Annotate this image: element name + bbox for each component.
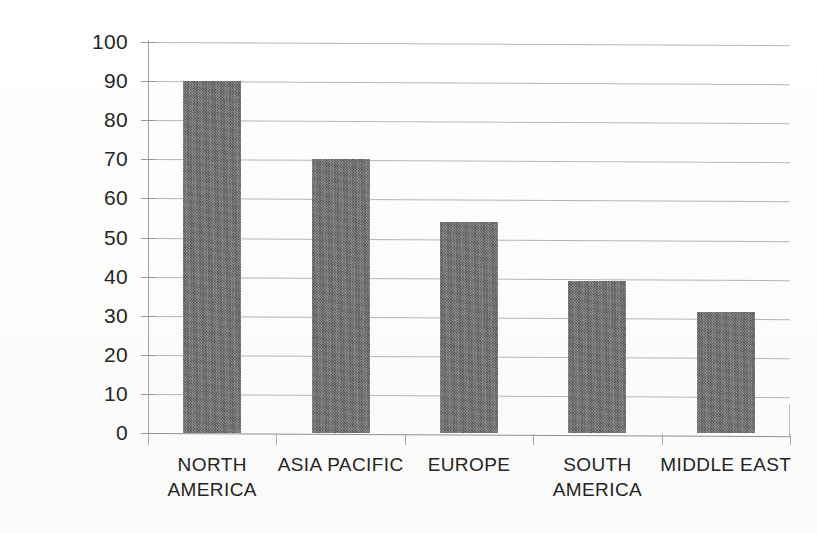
plot-area [148, 42, 790, 433]
y-tick-label-40: 40 [28, 265, 128, 289]
bar-chart: 1009080706050403020100 NORTH AMERICAASIA… [0, 0, 817, 533]
bar-europe [440, 222, 498, 433]
y-tick-label-10: 10 [28, 382, 128, 406]
y-tick-label-70: 70 [28, 147, 128, 171]
bar-south-america [568, 281, 626, 433]
x-tick-3 [533, 434, 534, 445]
x-tick-0 [148, 434, 149, 445]
y-tick-label-100: 100 [28, 30, 128, 54]
y-tick-label-30: 30 [28, 304, 128, 328]
y-tick-label-0: 0 [28, 421, 128, 445]
x-tick-2 [405, 434, 406, 445]
y-tick-label-90: 90 [28, 69, 128, 93]
y-tick-label-60: 60 [28, 186, 128, 210]
gridline-0 [148, 433, 790, 437]
x-tick-5 [790, 434, 791, 445]
x-tick-1 [276, 434, 277, 445]
bar-asia-pacific [312, 159, 370, 433]
x-tick-4 [662, 434, 663, 445]
y-tick-label-80: 80 [28, 108, 128, 132]
y-tick-label-50: 50 [28, 226, 128, 250]
bar-middle-east [697, 312, 755, 433]
y-tick-label-20: 20 [28, 343, 128, 367]
bar-north-america [183, 81, 241, 433]
x-label-middle-east: MIDDLE EAST [636, 452, 816, 477]
